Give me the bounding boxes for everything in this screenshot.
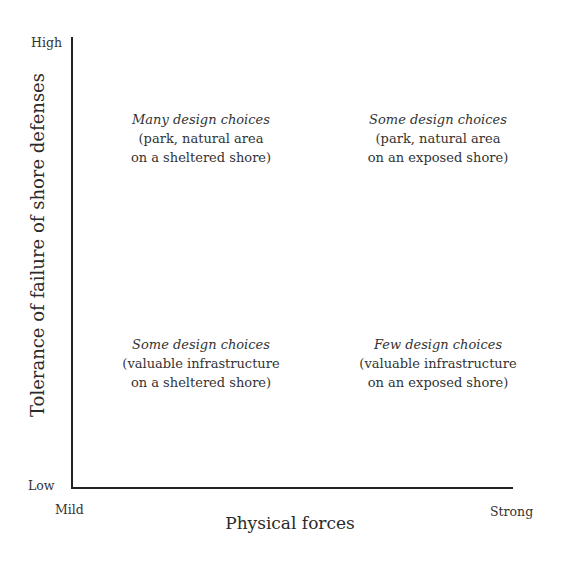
quadrant-title: Some design choices <box>318 110 558 129</box>
x-tick-strong: Strong <box>490 504 533 519</box>
quadrant-line: (park, natural area <box>318 129 558 148</box>
quadrant-top-left: Many design choices (park, natural area … <box>81 110 321 167</box>
y-axis-label: Tolerance of failure of shore defenses <box>27 73 48 417</box>
x-axis-label: Physical forces <box>225 513 355 533</box>
quadrant-line: on a sheltered shore) <box>81 148 321 167</box>
quadrant-line: on an exposed shore) <box>318 373 558 392</box>
quadrant-top-right: Some design choices (park, natural area … <box>318 110 558 167</box>
quadrant-line: (valuable infrastructure <box>81 354 321 373</box>
quadrant-line: on a sheltered shore) <box>81 373 321 392</box>
y-axis-line <box>71 37 73 489</box>
quadrant-title: Some design choices <box>81 335 321 354</box>
quadrant-line: (valuable infrastructure <box>318 354 558 373</box>
y-tick-high: High <box>31 35 62 50</box>
quadrant-bottom-right: Few design choices (valuable infrastruct… <box>318 335 558 392</box>
quadrant-title: Few design choices <box>318 335 558 354</box>
x-axis-line <box>71 487 513 489</box>
quadrant-line: (park, natural area <box>81 129 321 148</box>
x-tick-mild: Mild <box>55 502 84 517</box>
quadrant-title: Many design choices <box>81 110 321 129</box>
y-tick-low: Low <box>28 478 55 493</box>
quadrant-bottom-left: Some design choices (valuable infrastruc… <box>81 335 321 392</box>
quadrant-line: on an exposed shore) <box>318 148 558 167</box>
